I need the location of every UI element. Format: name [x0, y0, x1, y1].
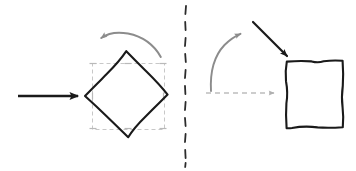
diagram-canvas: Rotation transform diagram [0, 0, 356, 171]
diagram-svg [0, 0, 356, 171]
canvas-background [0, 0, 356, 171]
